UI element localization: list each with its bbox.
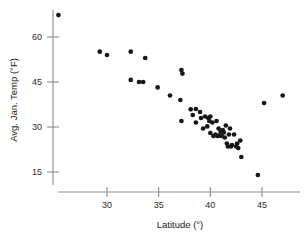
data-point <box>141 80 146 85</box>
data-point <box>97 49 102 54</box>
data-point <box>180 71 185 76</box>
x-axis-ticks: 30354045 <box>102 187 267 210</box>
y-tick-label: 15 <box>32 167 42 177</box>
data-point <box>221 130 226 135</box>
data-point <box>210 120 215 125</box>
y-axis-ticks: 15304560 <box>32 32 59 177</box>
data-point <box>178 98 183 103</box>
y-tick-label: 30 <box>32 122 42 132</box>
data-point <box>128 78 133 83</box>
data-point <box>256 173 261 178</box>
scatter-plot-figure: 15304560 30354045 Latitude (°) Avg. Jan.… <box>0 0 307 235</box>
data-point <box>128 49 133 54</box>
data-point <box>201 126 206 131</box>
x-tick-label: 45 <box>257 200 267 210</box>
x-axis-group: 30354045 <box>58 187 300 210</box>
data-point <box>208 114 213 119</box>
data-point <box>105 53 110 58</box>
x-tick-label: 40 <box>205 200 215 210</box>
x-tick-label: 30 <box>102 200 112 210</box>
y-tick-label: 45 <box>32 77 42 87</box>
y-tick-label: 60 <box>32 32 42 42</box>
data-point <box>143 56 148 61</box>
data-point <box>239 155 244 160</box>
data-point <box>232 132 237 137</box>
data-points-layer <box>56 13 285 178</box>
data-point <box>238 138 243 143</box>
data-point <box>188 107 193 112</box>
data-point <box>222 135 227 140</box>
x-tick-label: 35 <box>154 200 164 210</box>
data-point <box>137 80 142 85</box>
data-point <box>223 123 228 128</box>
data-point <box>56 13 61 18</box>
data-point <box>198 110 203 115</box>
data-point <box>168 93 173 98</box>
data-point <box>194 120 199 125</box>
y-axis-group: 15304560 <box>32 10 59 185</box>
x-axis-label: Latitude (°) <box>157 219 204 230</box>
data-point <box>214 119 219 124</box>
y-axis-label: Avg. Jan. Temp (°F) <box>8 58 19 142</box>
data-point <box>228 126 233 131</box>
data-point <box>179 119 184 124</box>
data-point <box>262 101 267 106</box>
data-point <box>190 113 195 118</box>
plot-canvas: 15304560 30354045 Latitude (°) Avg. Jan.… <box>0 0 307 235</box>
data-point <box>205 124 210 129</box>
data-point <box>199 116 204 121</box>
data-point <box>194 107 199 112</box>
data-point <box>227 132 232 137</box>
data-point <box>236 146 241 151</box>
data-point <box>155 85 160 90</box>
data-point <box>280 93 285 98</box>
data-point <box>230 143 235 148</box>
